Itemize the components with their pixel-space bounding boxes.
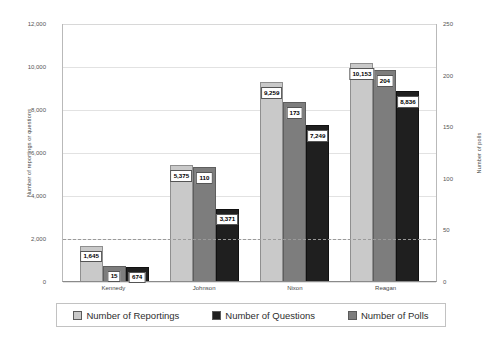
y-axis-left-tick-label: 8,000 xyxy=(0,107,46,113)
legend-label: Number of Questions xyxy=(225,310,315,321)
bar-value-label: 3,371 xyxy=(216,214,238,226)
legend-item[interactable]: Number of Questions xyxy=(212,310,315,321)
bar-value-label: 10,153 xyxy=(349,68,374,80)
x-axis-tick-label: Reagan xyxy=(340,285,431,297)
bar-groups: 1,645156745,3751103,3719,2591737,24910,1… xyxy=(63,24,436,281)
bar-value-label: 5,375 xyxy=(170,170,192,182)
bar: 204 xyxy=(373,70,396,281)
bar-value-label: 7,249 xyxy=(307,130,329,142)
legend-swatch-icon xyxy=(212,311,221,320)
y-axis-right-title: Number of polls xyxy=(476,78,482,228)
bar: 7,249 xyxy=(306,125,329,281)
bar: 5,375 xyxy=(170,165,193,281)
y-axis-right-tick-label: 150 xyxy=(443,124,490,130)
bar: 110 xyxy=(193,167,216,281)
y-axis-left-tick-label: 12,000 xyxy=(0,21,46,27)
y-axis-right-tick-label: 50 xyxy=(443,227,490,233)
y-axis-right-tick-label: 250 xyxy=(443,21,490,27)
y-axis-left-tick-label: 0 xyxy=(0,279,46,285)
chart-legend: Number of ReportingsNumber of QuestionsN… xyxy=(56,303,446,327)
x-axis-categories: KennedyJohnsonNixonReagan xyxy=(62,285,437,297)
bar: 3,371 xyxy=(216,209,239,281)
y-axis-left-tick-label: 10,000 xyxy=(0,64,46,70)
x-axis-tick-label: Johnson xyxy=(159,285,250,297)
bar-value-label: 110 xyxy=(196,172,212,184)
bar-group: 10,1532048,836 xyxy=(350,24,419,281)
bar: 173 xyxy=(283,102,306,281)
bar: 10,153 xyxy=(350,63,373,281)
y-axis-left-tick-label: 6,000 xyxy=(0,150,46,156)
bar: 8,836 xyxy=(396,91,419,281)
bar-group: 1,64515674 xyxy=(80,24,149,281)
y-axis-right-tick-label: 100 xyxy=(443,176,490,182)
bar: 9,259 xyxy=(260,82,283,281)
y-axis-right-tick-label: 0 xyxy=(443,279,490,285)
bar-value-label: 1,645 xyxy=(80,251,102,263)
bar-value-label: 8,836 xyxy=(397,96,419,108)
x-axis-tick-label: Kennedy xyxy=(68,285,159,297)
bar-value-label: 173 xyxy=(286,107,303,119)
y-axis-left-tick-label: 4,000 xyxy=(0,193,46,199)
bar-value-label: 674 xyxy=(129,272,146,284)
legend-item[interactable]: Number of Reportings xyxy=(73,310,179,321)
bar-value-label: 9,259 xyxy=(261,87,283,99)
x-axis-tick-label: Nixon xyxy=(250,285,341,297)
bar: 1,645 xyxy=(80,246,103,281)
plot-area: 1,645156745,3751103,3719,2591737,24910,1… xyxy=(62,24,437,282)
bar-group: 9,2591737,249 xyxy=(260,24,329,281)
bar: 15 xyxy=(103,266,126,281)
legend-swatch-icon xyxy=(348,311,357,320)
legend-item[interactable]: Number of Polls xyxy=(348,310,429,321)
y-axis-left-tick-label: 2,000 xyxy=(0,236,46,242)
y-axis-right-tick-label: 200 xyxy=(443,73,490,79)
legend-label: Number of Polls xyxy=(361,310,429,321)
reference-line xyxy=(63,239,436,240)
bar-group: 5,3751103,371 xyxy=(170,24,239,281)
legend-swatch-icon xyxy=(73,311,82,320)
bar-value-label: 204 xyxy=(377,75,394,87)
bar-value-label: 15 xyxy=(107,271,120,283)
legend-label: Number of Reportings xyxy=(86,310,179,321)
bar-chart: Number of reportings or questions Number… xyxy=(0,0,490,337)
bar: 674 xyxy=(126,267,149,281)
